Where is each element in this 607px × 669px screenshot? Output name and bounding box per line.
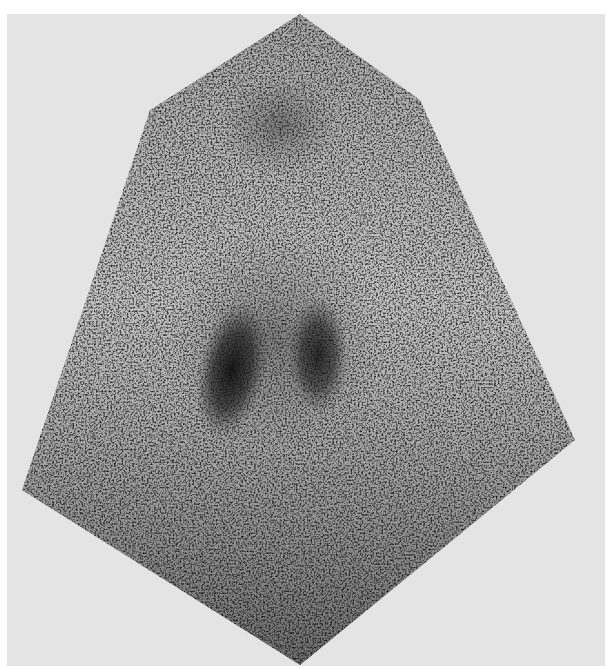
detector-field	[0, 0, 607, 669]
scintigraphy-image	[0, 0, 607, 669]
